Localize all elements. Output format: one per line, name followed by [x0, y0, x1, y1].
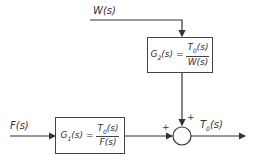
plus-sign-left: + — [162, 122, 170, 132]
block-g2: G2(s) = T0(s)W(s) — [147, 37, 213, 73]
input-w-label: W(s) — [93, 5, 116, 16]
diagram-lines — [0, 0, 254, 162]
input-f-label: F(s) — [10, 120, 29, 131]
summing-junction — [173, 127, 191, 145]
output-label: T0(s) — [200, 119, 223, 132]
block-g1: G1(s) = T0(s)F(s) — [55, 117, 125, 154]
plus-sign-top: + — [187, 112, 195, 122]
